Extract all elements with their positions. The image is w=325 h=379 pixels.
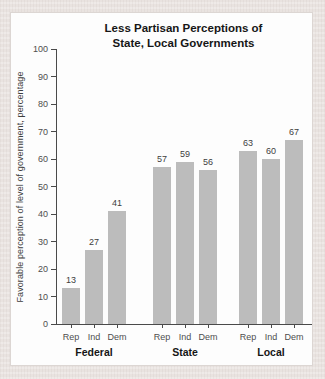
bar-federal-ind	[85, 250, 103, 324]
bar-state-ind	[176, 162, 194, 324]
y-tick-label: 40	[20, 209, 48, 219]
bar-value-label: 56	[193, 157, 223, 167]
chart-title-line-1: Less Partisan Perceptions of	[105, 22, 263, 34]
y-tick-mark	[51, 76, 56, 77]
bar-local-rep	[239, 151, 257, 324]
chart-title: Less Partisan Perceptions of State, Loca…	[56, 21, 311, 51]
y-tick-mark	[51, 324, 56, 325]
y-tick-label: 30	[20, 237, 48, 247]
bar-local-ind	[262, 159, 280, 324]
y-tick-mark	[51, 186, 56, 187]
category-label-dem: Dem	[279, 332, 309, 342]
chart-title-line-2: State, Local Governments	[113, 37, 255, 49]
group-label-federal: Federal	[52, 346, 136, 358]
y-tick-label: 20	[20, 264, 48, 274]
x-tick-mark	[248, 324, 249, 328]
page-background: { "chart_data": { "type": "bar", "title_…	[0, 0, 325, 379]
x-tick-mark	[71, 324, 72, 328]
y-tick-mark	[51, 296, 56, 297]
y-tick-label: 10	[20, 292, 48, 302]
bar-state-dem	[199, 170, 217, 324]
x-tick-mark	[294, 324, 295, 328]
y-tick-label: 50	[20, 182, 48, 192]
plot-area: 010203040506070809010013Rep27Ind41DemFed…	[56, 49, 312, 325]
y-tick-label: 80	[20, 99, 48, 109]
category-label-dem: Dem	[193, 332, 223, 342]
bar-local-dem	[285, 140, 303, 324]
y-tick-mark	[51, 104, 56, 105]
x-tick-mark	[117, 324, 118, 328]
x-tick-mark	[162, 324, 163, 328]
chart-panel: Less Partisan Perceptions of State, Loca…	[10, 12, 313, 366]
bar-value-label: 27	[79, 237, 109, 247]
y-tick-mark	[51, 159, 56, 160]
y-tick-label: 70	[20, 127, 48, 137]
y-tick-label: 90	[20, 72, 48, 82]
bar-state-rep	[153, 167, 171, 324]
y-tick-mark	[51, 214, 56, 215]
bar-value-label: 67	[279, 127, 309, 137]
group-label-local: Local	[229, 346, 313, 358]
x-tick-mark	[185, 324, 186, 328]
bar-value-label: 60	[256, 146, 286, 156]
x-tick-mark	[271, 324, 272, 328]
bar-federal-rep	[62, 288, 80, 324]
y-tick-mark	[51, 241, 56, 242]
group-label-state: State	[143, 346, 227, 358]
y-tick-label: 60	[20, 154, 48, 164]
y-tick-label: 0	[20, 319, 48, 329]
bar-value-label: 41	[102, 198, 132, 208]
y-tick-label: 100	[20, 44, 48, 54]
y-tick-mark	[51, 269, 56, 270]
y-tick-mark	[51, 49, 56, 50]
y-tick-mark	[51, 131, 56, 132]
bar-value-label: 13	[56, 275, 86, 285]
category-label-dem: Dem	[102, 332, 132, 342]
x-tick-mark	[94, 324, 95, 328]
bar-federal-dem	[108, 211, 126, 324]
x-tick-mark	[208, 324, 209, 328]
